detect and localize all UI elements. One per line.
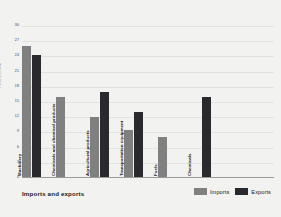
legend-label-imports: Imports — [210, 189, 229, 195]
y-tick-label: 24 — [15, 55, 19, 59]
bar-imports[interactable] — [158, 137, 167, 178]
legend-label-exports: Exports — [251, 189, 271, 195]
category-label: Agricultural products — [85, 130, 90, 176]
y-tick-label: 6 — [17, 146, 19, 150]
y-tick-label: 15 — [15, 100, 19, 104]
bar-exports[interactable] — [32, 55, 41, 178]
category-label: Machinery — [17, 154, 22, 176]
plot-area: MachineryChemicals and chemical products… — [22, 26, 274, 178]
y-tick-label: 12 — [15, 115, 19, 119]
y-tick-label: 30 — [15, 24, 19, 28]
bar-group: Chemicals — [192, 26, 226, 178]
y-tick-label: 18 — [15, 85, 19, 89]
y-tick-label: 27 — [15, 39, 19, 43]
category-label: Chemicals and chemical products — [51, 103, 56, 176]
y-tick-label: 9 — [17, 131, 19, 135]
legend-item-exports[interactable]: Exports — [235, 188, 271, 195]
bar-groups: MachineryChemicals and chemical products… — [22, 26, 274, 178]
category-label: Chemicals — [187, 154, 192, 176]
legend-swatch-imports — [194, 188, 207, 195]
bar-exports[interactable] — [100, 92, 109, 178]
x-axis-baseline — [22, 177, 274, 178]
category-label: Transportation equipment — [119, 121, 124, 176]
category-label: Fuels — [153, 164, 158, 176]
bar-exports[interactable] — [202, 97, 211, 178]
legend-item-imports[interactable]: Imports — [194, 188, 229, 195]
bar-imports[interactable] — [22, 46, 31, 178]
bar-imports[interactable] — [90, 117, 99, 178]
y-tick-label: 0 — [17, 176, 19, 180]
legend-swatch-exports — [235, 188, 248, 195]
y-axis-title: Percent of total — [0, 63, 2, 88]
bar-group: Transportation equipment — [124, 26, 158, 178]
y-tick-label: 21 — [15, 70, 19, 74]
chart-title: Imports and exports — [22, 190, 84, 197]
bar-exports[interactable] — [134, 112, 143, 178]
chart-legend: Imports Exports — [194, 188, 271, 195]
bar-imports[interactable] — [56, 97, 65, 178]
chart-figure: Percent of total 302724211815129630 Mach… — [0, 0, 281, 217]
bar-imports[interactable] — [124, 130, 133, 178]
